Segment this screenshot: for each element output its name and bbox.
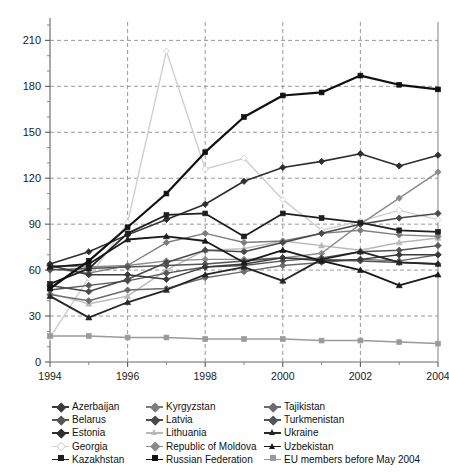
data-point-marker xyxy=(319,90,324,95)
data-point-marker xyxy=(203,337,208,342)
data-point-marker xyxy=(163,276,169,282)
data-point-marker xyxy=(163,239,169,245)
data-point-marker xyxy=(86,334,91,339)
legend-marker-square-icon xyxy=(52,454,69,465)
data-point-marker xyxy=(435,216,441,222)
data-point-marker xyxy=(435,210,441,216)
legend-item[interactable]: Uzbekistan xyxy=(264,440,449,453)
legend-marker-diamond-icon xyxy=(146,441,163,452)
x-axis-tick-label: 2004 xyxy=(426,370,449,382)
legend-item[interactable]: Ukraine xyxy=(264,426,449,439)
legend-marker-triangle-icon xyxy=(264,441,281,452)
legend-marker-diamond-icon xyxy=(52,414,69,425)
legend-marker-diamond-icon xyxy=(264,414,281,425)
data-point-marker xyxy=(164,213,169,218)
data-point-marker xyxy=(396,215,402,221)
chart-page: 0306090120150180210199419961998200020022… xyxy=(0,0,449,472)
data-point-marker xyxy=(319,216,324,221)
legend-item-label: Ukraine xyxy=(284,427,318,438)
y-axis-tick-label: 210 xyxy=(23,34,41,46)
y-axis-tick-label: 60 xyxy=(29,264,41,276)
legend-marker-diamond-icon xyxy=(52,427,69,438)
data-point-marker xyxy=(396,207,402,213)
y-axis-tick-label: 30 xyxy=(29,310,41,322)
data-point-marker xyxy=(435,252,441,258)
y-axis-tick-label: 150 xyxy=(23,126,41,138)
data-point-marker xyxy=(396,163,402,169)
data-point-marker xyxy=(48,286,53,291)
y-axis-tick-label: 180 xyxy=(23,80,41,92)
data-point-marker xyxy=(435,243,441,249)
data-point-marker xyxy=(86,282,92,288)
legend-marker-diamond-icon xyxy=(264,401,281,412)
legend-item-label: Latvia xyxy=(166,414,193,425)
y-axis-tick-label: 90 xyxy=(29,218,41,230)
data-point-marker xyxy=(125,225,130,230)
series-eu-members-before-may-2004 xyxy=(48,334,441,346)
data-point-marker xyxy=(242,234,247,239)
data-point-marker xyxy=(280,93,285,98)
y-axis-tick-label: 120 xyxy=(23,172,41,184)
data-point-marker xyxy=(435,152,441,158)
data-point-marker xyxy=(164,191,169,196)
legend-marker-diamond-icon xyxy=(146,401,163,412)
x-axis-tick-label: 1998 xyxy=(194,370,218,382)
data-point-marker xyxy=(396,252,402,258)
data-point-marker xyxy=(358,220,363,225)
data-point-marker xyxy=(203,150,208,155)
legend-item-label: Russian Federation xyxy=(166,454,253,465)
legend-marker-diamond-icon xyxy=(52,441,69,452)
legend-item-label: Kazakhstan xyxy=(72,454,124,465)
legend-marker-diamond-icon xyxy=(146,414,163,425)
legend-item-label: Georgia xyxy=(72,441,108,452)
legend-item-label: Uzbekistan xyxy=(284,441,333,452)
data-point-marker xyxy=(319,158,325,164)
data-point-marker xyxy=(202,166,208,172)
legend-item[interactable]: Lithuania xyxy=(146,426,271,439)
data-point-marker xyxy=(357,227,363,233)
y-axis-tick-label: 0 xyxy=(35,356,41,368)
legend-item-label: Belarus xyxy=(72,414,106,425)
data-point-marker xyxy=(86,288,92,294)
data-point-marker xyxy=(125,231,130,236)
legend-marker-square-icon xyxy=(146,454,163,465)
data-point-marker xyxy=(48,334,53,339)
data-point-marker xyxy=(125,287,131,293)
legend-item[interactable]: Latvia xyxy=(146,413,271,426)
legend-marker-square-icon xyxy=(264,454,281,465)
data-point-marker xyxy=(242,115,247,120)
legend-item[interactable]: Russian Federation xyxy=(146,453,271,466)
legend-item[interactable]: Turkmenistan xyxy=(264,413,449,426)
x-axis-tick-label: 1996 xyxy=(116,370,140,382)
data-point-marker xyxy=(280,211,285,216)
legend-item[interactable]: EU members before May 2004 xyxy=(264,453,449,466)
legend-item[interactable]: Kyrgyzstan xyxy=(146,400,271,413)
chart-legend: AzerbaijanBelarusEstoniaGeorgiaKazakhsta… xyxy=(46,400,446,470)
legend-item-label: Estonia xyxy=(72,427,105,438)
data-point-marker xyxy=(358,73,363,78)
data-point-marker xyxy=(280,164,286,170)
line-chart: 0306090120150180210199419961998200020022… xyxy=(0,0,449,392)
data-point-marker xyxy=(86,249,92,255)
data-point-marker xyxy=(397,340,402,345)
data-point-marker xyxy=(125,272,131,278)
data-point-marker xyxy=(203,211,208,216)
legend-item[interactable]: Tajikistan xyxy=(264,400,449,413)
data-point-marker xyxy=(48,281,53,286)
data-point-marker xyxy=(436,229,441,234)
legend-marker-diamond-icon xyxy=(52,401,69,412)
series-line xyxy=(50,51,438,337)
legend-item-label: Lithuania xyxy=(166,427,207,438)
legend-item-label: Kyrgyzstan xyxy=(166,401,215,412)
legend-marker-triangle-icon xyxy=(146,427,163,438)
legend-item[interactable]: Republic of Moldova xyxy=(146,440,271,453)
legend-item-label: Turkmenistan xyxy=(284,414,344,425)
data-point-marker xyxy=(358,338,363,343)
legend-marker-triangle-icon xyxy=(264,427,281,438)
x-axis-tick-label: 2000 xyxy=(271,370,295,382)
legend-column-2: KyrgyzstanLatviaLithuaniaRepublic of Mol… xyxy=(146,400,271,466)
data-point-marker xyxy=(357,151,363,157)
data-point-marker xyxy=(86,259,91,264)
data-point-marker xyxy=(436,341,441,346)
data-point-marker xyxy=(164,335,169,340)
